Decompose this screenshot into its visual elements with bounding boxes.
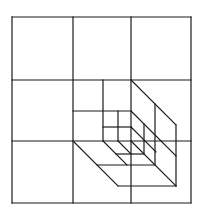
nested-box-grid-diagram xyxy=(0,0,205,212)
